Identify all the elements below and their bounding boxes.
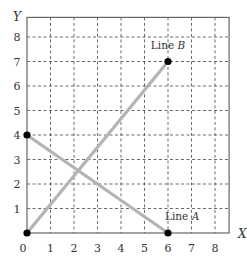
x-tick-5: 5 (141, 242, 148, 255)
line-chart: 012345678 12345678 X Y Line A Line B (0, 0, 247, 258)
y-tick-2: 2 (14, 178, 21, 191)
x-tick-2: 2 (71, 242, 78, 255)
line-a-letter: A (191, 210, 200, 222)
y-tick-7: 7 (14, 56, 21, 69)
y-tick-6: 6 (14, 80, 21, 93)
line-a-prefix: Line (165, 210, 192, 222)
line-b-label: Line B (151, 39, 186, 51)
y-tick-1: 1 (14, 203, 21, 216)
x-tick-7: 7 (188, 242, 195, 255)
y-tick-3: 3 (14, 154, 21, 167)
x-tick-8: 8 (212, 242, 219, 255)
endpoint-dot (164, 58, 171, 65)
endpoint-dot (23, 131, 30, 138)
line-a-label: Line A (165, 210, 200, 222)
x-tick-1: 1 (47, 242, 54, 255)
line-b-letter: B (176, 39, 185, 51)
y-axis-label: Y (13, 10, 22, 24)
y-tick-labels: 12345678 (14, 31, 21, 216)
grid-lines (27, 17, 229, 233)
x-tick-0: 0 (20, 242, 27, 255)
x-axis-label: X (237, 227, 247, 241)
endpoint-dot (164, 229, 171, 236)
x-tick-4: 4 (118, 242, 125, 255)
y-tick-4: 4 (14, 129, 21, 142)
plot-frame (27, 17, 229, 233)
x-tick-3: 3 (94, 242, 101, 255)
x-tick-labels: 012345678 (20, 242, 219, 255)
endpoint-dot (23, 229, 30, 236)
line-b-prefix: Line (151, 39, 178, 51)
x-tick-6: 6 (165, 242, 172, 255)
y-tick-8: 8 (14, 31, 21, 44)
y-tick-5: 5 (14, 105, 21, 118)
